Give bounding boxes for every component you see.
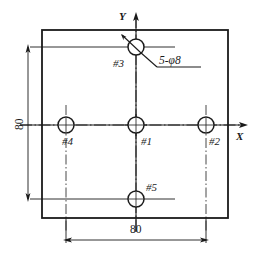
- hole-3-circle: [128, 39, 144, 55]
- drawing-canvas: [0, 0, 263, 258]
- hole-2: [198, 117, 214, 133]
- hole-1: [125, 114, 147, 136]
- dim-horizontal-label: 80: [130, 224, 142, 236]
- hole-4-label: #4: [62, 136, 73, 147]
- hole-4: [58, 117, 74, 133]
- hole-3-label: #3: [113, 58, 124, 69]
- hole-2-label: #2: [209, 136, 220, 147]
- y-axis-label: Y: [119, 11, 126, 22]
- hole-1-label: #1: [141, 136, 152, 147]
- engineering-drawing: Y X 5-φ8 #1 #2 #3 #4 #5 80 80: [0, 0, 263, 258]
- hole-3-arrowhead: [121, 34, 127, 40]
- callout-leader-line: [140, 52, 157, 67]
- callout-label: 5-φ8: [159, 55, 181, 67]
- hole-5: [128, 191, 144, 207]
- x-axis-label: X: [236, 131, 243, 142]
- hole-5-label: #5: [146, 182, 157, 193]
- dim-vertical-label: 80: [14, 119, 26, 131]
